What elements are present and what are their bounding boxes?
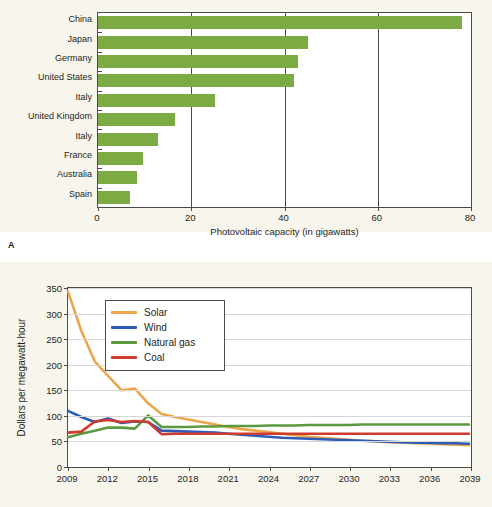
bar-chart-x-tick-label: 60 xyxy=(371,212,382,223)
bar-chart-bar xyxy=(98,36,308,49)
legend-label: Coal xyxy=(144,352,165,363)
line-chart-y-tick-label: 200 xyxy=(46,359,62,370)
bar-chart-bar-row: France xyxy=(98,152,471,165)
bar-chart-y-tick xyxy=(98,188,102,189)
line-chart-gridline xyxy=(68,390,471,391)
bar-chart-bar xyxy=(98,94,215,107)
bar-chart-category-label: France xyxy=(64,150,92,160)
bar-chart-x-axis-title: Photovoltaic capacity (in gigawatts) xyxy=(97,226,472,237)
bar-chart-category-label: United Kingdom xyxy=(28,111,92,121)
bar-chart-bar xyxy=(98,16,462,29)
legend-item: Natural gas xyxy=(111,335,218,350)
bar-chart-x-tick xyxy=(98,207,99,211)
bar-chart-bar-row: United Kingdom xyxy=(98,113,471,126)
line-chart-x-tick xyxy=(189,467,190,471)
line-chart-x-tick-label: 2012 xyxy=(97,473,118,484)
line-chart-x-tick xyxy=(108,467,109,471)
legend-item: Wind xyxy=(111,320,218,335)
line-chart-y-tick xyxy=(64,416,68,417)
line-chart-x-tick xyxy=(229,467,230,471)
bar-chart-category-label: Australia xyxy=(57,169,92,179)
line-chart-x-tick xyxy=(270,467,271,471)
line-chart-y-tick xyxy=(64,339,68,340)
line-chart-x-tick-label: 2009 xyxy=(56,473,77,484)
panel-label-a: A xyxy=(8,240,15,250)
bar-chart-y-tick xyxy=(98,32,102,33)
line-chart-gridline xyxy=(68,288,471,289)
bar-chart-x-tick-label: 0 xyxy=(94,212,99,223)
bar-chart-category-label: Italy xyxy=(75,131,92,141)
bar-chart-x-tick xyxy=(285,207,286,211)
line-chart-x-tick xyxy=(68,467,69,471)
bar-chart-x-tick xyxy=(378,207,379,211)
line-chart-y-tick xyxy=(64,288,68,289)
line-chart-y-tick-label: 100 xyxy=(46,410,62,421)
line-chart-x-tick xyxy=(390,467,391,471)
line-chart-x-tick xyxy=(431,467,432,471)
bar-chart-bar-row: Japan xyxy=(98,36,471,49)
line-chart-y-tick-label: 300 xyxy=(46,308,62,319)
bar-chart-category-label: China xyxy=(68,14,92,24)
line-chart-x-tick-label: 2024 xyxy=(258,473,279,484)
legend-swatch-icon xyxy=(111,311,137,315)
legend-item: Coal xyxy=(111,350,218,365)
bar-chart-bar xyxy=(98,191,130,204)
bar-chart-plot-area: ChinaJapanGermanyUnited StatesItalyUnite… xyxy=(97,12,472,208)
bar-chart-panel: ChinaJapanGermanyUnited StatesItalyUnite… xyxy=(0,0,492,232)
line-chart-y-tick xyxy=(64,390,68,391)
bar-chart-x-tick-label: 40 xyxy=(278,212,289,223)
bar-chart-y-tick xyxy=(98,91,102,92)
legend-label: Solar xyxy=(144,307,167,318)
bar-chart-x-tick xyxy=(191,207,192,211)
bar-chart-y-tick xyxy=(98,168,102,169)
bar-chart-category-label: United States xyxy=(38,72,92,82)
line-chart-x-tick-label: 2021 xyxy=(218,473,239,484)
line-chart-y-axis-title: Dollars per megawatt-hour xyxy=(16,287,30,468)
figure-page: ChinaJapanGermanyUnited StatesItalyUnite… xyxy=(0,0,492,507)
bar-chart-bar xyxy=(98,133,158,146)
bar-chart-bar-row: Italy xyxy=(98,133,471,146)
line-chart-y-tick-label: 350 xyxy=(46,283,62,294)
bar-chart-x-tick-label: 80 xyxy=(465,212,476,223)
line-chart-y-tick-label: 250 xyxy=(46,334,62,345)
bar-chart-bar xyxy=(98,171,137,184)
line-chart-x-tick xyxy=(149,467,150,471)
legend-item: Solar xyxy=(111,305,218,320)
bar-chart-bar xyxy=(98,74,294,87)
line-chart-legend: SolarWindNatural gasCoal xyxy=(105,300,225,371)
bar-chart-bar-row: Australia xyxy=(98,171,471,184)
bar-chart-x-tick-label: 20 xyxy=(185,212,196,223)
line-chart-x-tick xyxy=(310,467,311,471)
legend-swatch-icon xyxy=(111,326,137,330)
line-chart-y-tick-label: 150 xyxy=(46,385,62,396)
bar-chart-bar xyxy=(98,113,175,126)
bar-chart-y-tick xyxy=(98,149,102,150)
legend-swatch-icon xyxy=(111,341,137,345)
bar-chart-bar-row: Germany xyxy=(98,55,471,68)
line-chart-y-tick-label: 0 xyxy=(57,462,62,473)
bar-chart-bar-row: United States xyxy=(98,74,471,87)
bar-chart-y-tick xyxy=(98,52,102,53)
bar-chart-bar-row: China xyxy=(98,16,471,29)
line-chart-x-tick-label: 2033 xyxy=(379,473,400,484)
bar-chart-bar xyxy=(98,152,143,165)
bar-chart-bar-row: Italy xyxy=(98,94,471,107)
line-chart-x-tick xyxy=(471,467,472,471)
legend-swatch-icon xyxy=(111,356,137,360)
line-chart-x-tick-label: 2039 xyxy=(459,473,480,484)
legend-label: Natural gas xyxy=(144,337,195,348)
line-chart-x-tick xyxy=(350,467,351,471)
bar-chart-x-tick xyxy=(471,207,472,211)
line-chart-x-tick-label: 2030 xyxy=(339,473,360,484)
line-chart-x-tick-label: 2027 xyxy=(298,473,319,484)
bar-chart-bar xyxy=(98,55,298,68)
bar-chart-rows: ChinaJapanGermanyUnited StatesItalyUnite… xyxy=(98,13,471,207)
bar-chart-y-tick xyxy=(98,110,102,111)
legend-label: Wind xyxy=(144,322,167,333)
bar-chart-y-tick xyxy=(98,71,102,72)
line-chart-y-tick xyxy=(64,314,68,315)
bar-chart-category-label: Spain xyxy=(69,189,92,199)
line-chart-y-tick-label: 50 xyxy=(51,436,62,447)
line-chart-y-tick xyxy=(64,441,68,442)
line-chart-gridline xyxy=(68,441,471,442)
